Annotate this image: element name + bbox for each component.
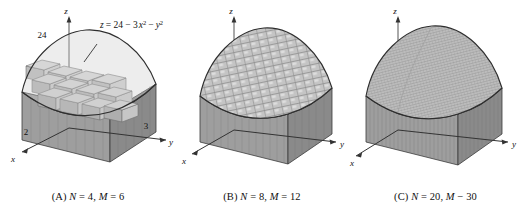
panel-b-caption-n-val: = 8,	[247, 191, 269, 202]
equation-minus: −	[148, 20, 153, 30]
x-axis-arrow	[22, 148, 28, 153]
x-axis-label: x	[349, 158, 354, 168]
y-axis-label: y	[168, 137, 173, 147]
y-axis-arrow	[502, 140, 508, 145]
equation-body: = 24 − 3	[106, 20, 138, 30]
z-axis-arrow	[232, 16, 237, 22]
equation-y-exp: 2	[160, 19, 163, 26]
panel-c: z x y (C) N = 20, M − 30	[348, 0, 523, 208]
panel-a-caption-n-val: = 4,	[76, 191, 98, 202]
panel-b: z x y (B) N = 8, M = 12	[176, 0, 348, 208]
z-axis-label: z	[228, 6, 233, 16]
surface-equation-label: z= 24 − 3x2−y2	[99, 19, 163, 31]
panel-c-svg: z x y	[348, 0, 523, 178]
panel-c-caption-m-val: − 30	[455, 191, 477, 202]
z-axis-arrow	[67, 16, 72, 22]
y-tick-label: 3	[144, 121, 149, 131]
panel-a: z= 24 − 3x2−y2 24 2 3 z x y (A) N = 4, M…	[0, 0, 176, 208]
z-axis-label: z	[63, 6, 68, 16]
panel-b-caption-prefix: (B)	[223, 191, 240, 202]
y-axis-label: y	[511, 139, 516, 149]
panel-a-caption-m: M	[99, 191, 108, 202]
equation-z: z	[99, 20, 104, 30]
riemann-sum-figure: z= 24 − 3x2−y2 24 2 3 z x y (A) N = 4, M…	[0, 0, 523, 208]
panel-a-caption-prefix: (A)	[52, 191, 70, 202]
y-axis-arrow	[330, 140, 336, 145]
panel-b-caption-m: M	[270, 191, 279, 202]
x-axis-label: x	[10, 154, 15, 164]
x-axis-label: x	[181, 156, 186, 166]
x-tick-label: 2	[24, 127, 29, 137]
panel-c-plot: z x y	[348, 0, 523, 178]
z-axis-label: z	[392, 6, 397, 16]
panel-c-caption-prefix: (C)	[394, 191, 411, 202]
panel-b-svg: z x y	[176, 0, 348, 178]
z-axis-arrow	[396, 16, 401, 22]
panel-b-caption: (B) N = 8, M = 12	[176, 191, 348, 202]
panel-c-caption-n-val: = 20,	[418, 191, 446, 202]
equation-x-exp: 2	[143, 19, 146, 26]
panel-a-caption-m-val: = 6	[108, 191, 125, 202]
panel-b-plot: z x y	[176, 0, 348, 178]
panel-c-caption: (C) N = 20, M − 30	[348, 191, 523, 202]
panel-c-caption-m: M	[446, 191, 455, 202]
y-axis-label: y	[339, 139, 344, 149]
panel-a-svg: z= 24 − 3x2−y2 24 2 3 z x y	[0, 0, 176, 178]
panel-a-caption: (A) N = 4, M = 6	[0, 191, 176, 202]
z-tick-label: 24	[38, 30, 48, 40]
panel-a-plot: z= 24 − 3x2−y2 24 2 3 z x y	[0, 0, 176, 178]
x-axis-arrow	[192, 150, 198, 155]
y-axis-arrow	[160, 138, 166, 143]
panel-b-caption-m-val: = 12	[279, 191, 301, 202]
